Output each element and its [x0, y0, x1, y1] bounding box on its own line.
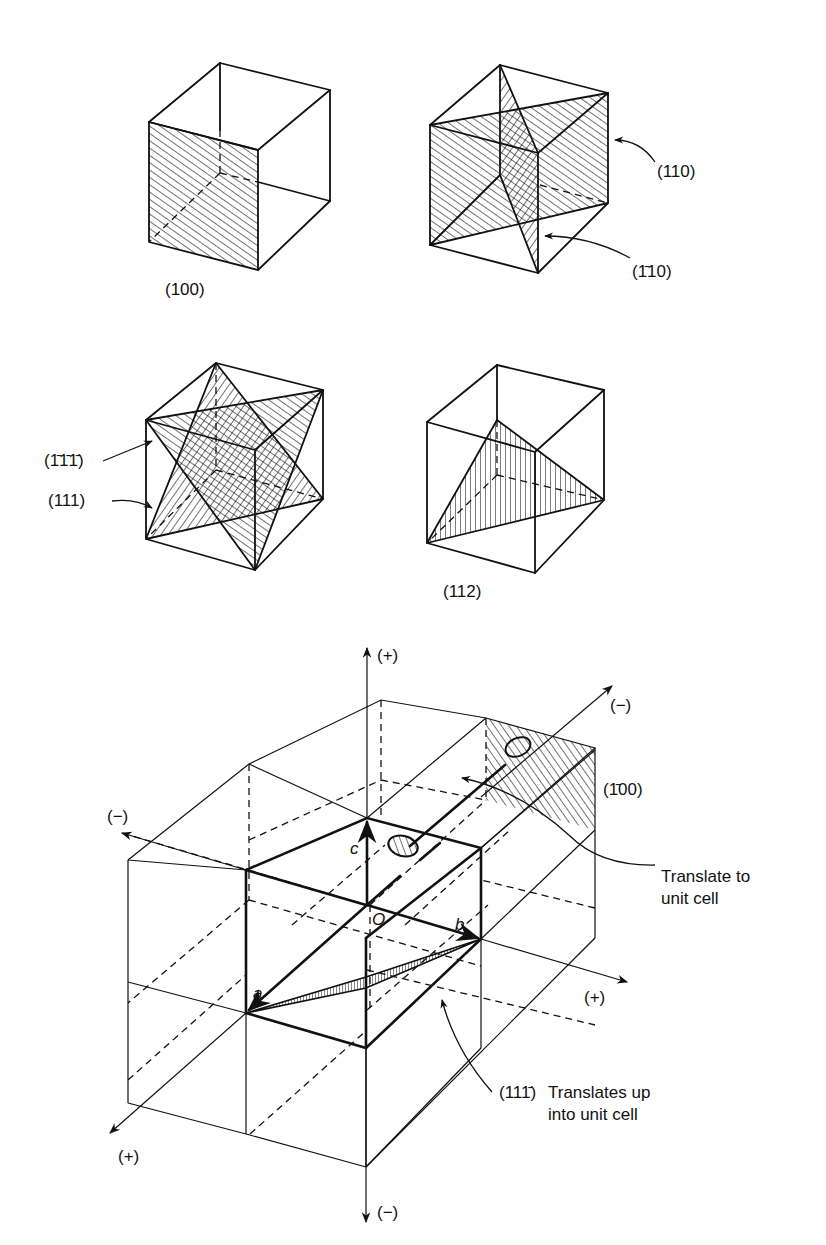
label-1bar1bar1bar: (1̄1̄1̄) [44, 451, 84, 470]
cube-111-panel: (1̄1̄1̄) (111) [44, 363, 323, 570]
cube-100-panel: (100) [149, 63, 330, 299]
plane-112-face [427, 420, 604, 543]
crystal-planes-figure: (100) (110) (1̄10) [0, 0, 826, 1245]
vector-c-label: c [350, 839, 359, 858]
a-negative-label: (−) [610, 696, 631, 715]
label-111: (111) [48, 491, 85, 510]
cube-110-panel: (110) (1̄10) [430, 65, 695, 281]
c-negative-label: (−) [377, 1203, 398, 1222]
lattice-diagram: (+) (−) (+) (−) (+) (−) (1̄00) [107, 646, 750, 1222]
vector-a-label: a [253, 984, 262, 1003]
b-axis-positive [481, 939, 627, 982]
label-1bar10: (1̄10) [632, 262, 672, 281]
c-positive-label: (+) [377, 646, 398, 665]
a-positive-label: (+) [118, 1147, 139, 1166]
vector-b-label: b [455, 915, 464, 934]
cube-112-panel: (112) [427, 365, 604, 601]
annotation-translate-2: unit cell [661, 889, 719, 908]
annotation-translates-up-1: Translates up [548, 1083, 650, 1102]
ellipse-unit-cell [386, 832, 420, 859]
label-110: (110) [657, 162, 695, 181]
b-negative-label: (−) [107, 807, 128, 826]
plane-1bar10-face [500, 65, 538, 273]
plane-100-face [149, 122, 258, 270]
a-axis-positive [110, 1013, 246, 1133]
annotation-translates-up-2: into unit cell [548, 1105, 638, 1124]
annotation-translate-1: Translate to [661, 867, 750, 886]
label-1bar00: (1̄00) [603, 780, 643, 799]
plane-1bar00-face [486, 718, 595, 830]
label-112: (112) [443, 582, 481, 601]
origin-label: O [372, 910, 385, 929]
label-111bar: (111̄) [499, 1083, 536, 1102]
label-100: (100) [165, 280, 205, 299]
b-positive-label: (+) [584, 988, 605, 1007]
plane-111bar-face [246, 939, 481, 1013]
